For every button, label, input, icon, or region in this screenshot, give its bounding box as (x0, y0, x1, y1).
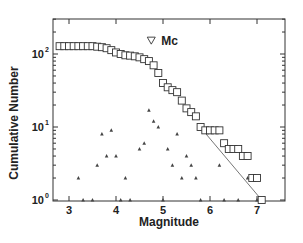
triangle-point (166, 147, 170, 151)
triangle-point (152, 119, 156, 123)
triangle-point (114, 154, 118, 158)
triangle-point (105, 154, 109, 158)
chart: Mc 100101102 34567 Magnitude Cumulative … (0, 0, 303, 243)
triangle-point (147, 108, 151, 112)
square-point (244, 153, 251, 160)
triangle-point (171, 163, 175, 167)
triangle-point (199, 198, 203, 202)
triangle-point (128, 198, 132, 202)
mc-annotation: Mc (147, 34, 178, 48)
triangle-point (119, 198, 123, 202)
y-tick-exponent: 1 (45, 119, 49, 126)
square-point (178, 97, 185, 104)
cumulative-points (56, 43, 265, 204)
y-tick-label: 10 (32, 121, 44, 133)
triangle-point (100, 132, 104, 136)
triangle-point (77, 176, 81, 180)
x-tick-label: 7 (254, 204, 260, 216)
triangle-point (95, 163, 99, 167)
x-tick-label: 6 (207, 204, 213, 216)
inverted-triangle-icon (147, 37, 155, 44)
square-point (174, 89, 181, 96)
triangle-point (138, 147, 142, 151)
y-tick-exponent: 2 (45, 46, 49, 53)
y-axis-label: Cumulative Number (7, 66, 21, 180)
x-tick-label: 4 (113, 204, 120, 216)
triangle-point (142, 141, 146, 145)
triangle-point (189, 163, 193, 167)
y-tick-labels: 100101102 (32, 46, 49, 206)
triangle-point (222, 198, 226, 202)
mc-label: Mc (161, 34, 178, 48)
triangle-point (180, 176, 184, 180)
y-tick-exponent: 0 (45, 192, 49, 199)
y-tick-label: 10 (32, 48, 44, 60)
x-tick-label: 3 (66, 204, 72, 216)
triangle-point (91, 198, 95, 202)
square-point (235, 145, 242, 152)
fit-line (203, 130, 262, 200)
square-point (150, 62, 157, 69)
triangle-point (110, 128, 114, 132)
triangle-point (157, 125, 161, 129)
triangle-point (185, 154, 189, 158)
square-point (192, 113, 199, 120)
triangle-point (175, 132, 179, 136)
square-point (258, 197, 265, 204)
triangle-point (236, 198, 240, 202)
square-point (254, 175, 261, 182)
triangle-point (218, 163, 222, 167)
triangle-point (81, 198, 85, 202)
non-cumulative-points (77, 108, 264, 201)
square-point (216, 127, 223, 134)
triangle-point (124, 176, 128, 180)
y-tick-label: 10 (32, 194, 44, 206)
square-point (155, 69, 162, 76)
x-axis-label: Magnitude (139, 215, 199, 229)
triangle-point (194, 176, 198, 180)
triangle-point (161, 198, 165, 202)
